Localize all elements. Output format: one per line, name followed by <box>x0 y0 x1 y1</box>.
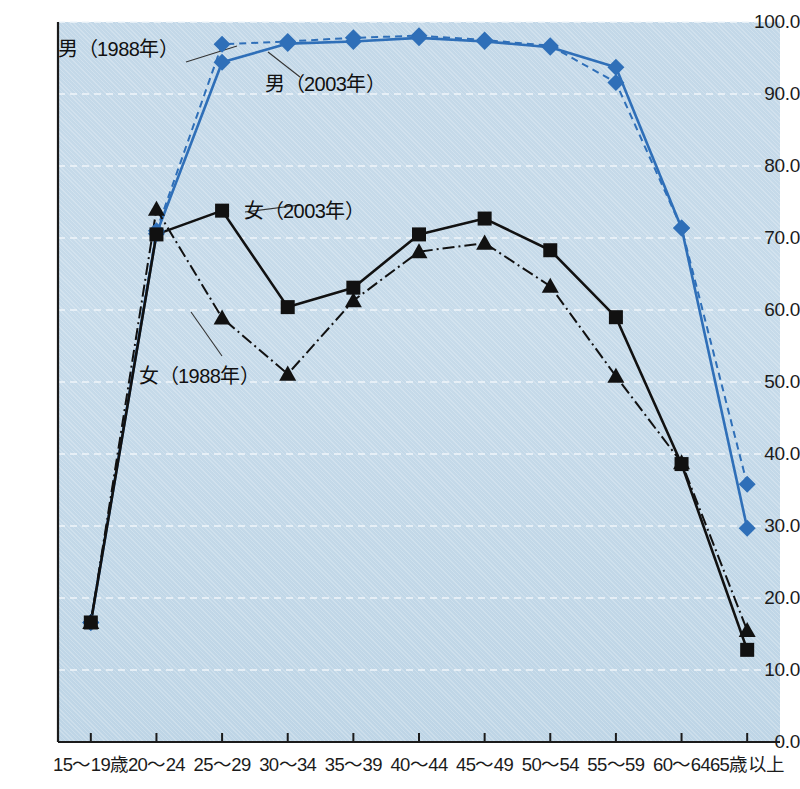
y-tick-label: 30.0 <box>748 515 800 537</box>
series-line-male_1988 <box>91 36 747 623</box>
x-tick-label: 45～49 <box>456 750 513 776</box>
data-point-female_1988-7 <box>542 278 559 293</box>
y-tick-label: 10.0 <box>748 659 800 681</box>
y-tick-label: 100.0 <box>748 11 800 33</box>
y-tick-label: 40.0 <box>748 443 800 465</box>
y-tick-label: 20.0 <box>748 587 800 609</box>
data-point-female_2003-7 <box>543 243 557 257</box>
data-point-female_2003-1 <box>149 227 163 241</box>
series-markers <box>82 27 755 657</box>
y-tick-label: 60.0 <box>748 299 800 321</box>
data-point-female_2003-5 <box>412 227 426 241</box>
series-lines <box>91 36 747 650</box>
x-tick-label: 65歳以上 <box>710 750 785 776</box>
series-line-female_1988 <box>91 209 747 630</box>
data-point-male_2003-8 <box>607 59 624 76</box>
x-tick-label: 60～64 <box>653 750 710 776</box>
x-tick-label: 15～19歳 <box>53 750 129 776</box>
line-chart: 100.090.080.070.060.050.040.030.020.010.… <box>0 0 800 789</box>
data-point-male_1988-10 <box>739 476 756 493</box>
data-point-male_1988-8 <box>607 74 624 91</box>
x-tick-label: 40～44 <box>390 750 447 776</box>
data-point-female_2003-2 <box>215 204 229 218</box>
data-point-female_1988-8 <box>607 368 624 383</box>
data-point-female_1988-6 <box>476 235 493 250</box>
x-tick-label: 55～59 <box>587 750 644 776</box>
data-point-female_2003-10 <box>740 643 754 657</box>
data-point-male_1988-2 <box>214 36 231 53</box>
data-point-female_2003-0 <box>84 615 98 629</box>
chart-canvas <box>0 0 800 789</box>
x-tick-marks <box>91 733 747 742</box>
x-tick-label: 50～54 <box>522 750 579 776</box>
series-label-female-2003: 女（2003年） <box>244 195 365 224</box>
series-line-male_2003 <box>91 38 747 623</box>
gridlines <box>58 22 780 670</box>
x-tick-label: 30～34 <box>259 750 316 776</box>
data-point-female_2003-4 <box>346 281 360 295</box>
series-label-male-2003: 男（2003年） <box>265 68 386 97</box>
x-tick-label: 25～29 <box>194 750 251 776</box>
data-point-female_2003-8 <box>609 310 623 324</box>
y-tick-label: 80.0 <box>748 155 800 177</box>
series-label-female-1988: 女（1988年） <box>139 360 260 389</box>
x-tick-label: 20～24 <box>128 750 185 776</box>
data-point-female_1988-1 <box>148 201 165 216</box>
data-point-female_1988-2 <box>214 309 231 324</box>
data-point-male_2003-5 <box>411 29 428 46</box>
y-tick-label: 90.0 <box>748 83 800 105</box>
data-point-male_2003-7 <box>542 39 559 56</box>
data-point-male_2003-9 <box>673 219 690 236</box>
data-point-female_2003-3 <box>281 300 295 314</box>
data-point-female_2003-6 <box>478 212 492 226</box>
series-line-female_2003 <box>91 211 747 650</box>
data-point-female_2003-9 <box>675 457 689 471</box>
y-tick-label: 50.0 <box>748 371 800 393</box>
data-point-male_2003-6 <box>476 33 493 50</box>
y-tick-label: 70.0 <box>748 227 800 249</box>
data-point-male_2003-3 <box>279 35 296 52</box>
series-label-male-1988: 男（1988年） <box>58 33 179 62</box>
x-tick-label: 35～39 <box>325 750 382 776</box>
data-point-male_2003-2 <box>214 54 231 71</box>
